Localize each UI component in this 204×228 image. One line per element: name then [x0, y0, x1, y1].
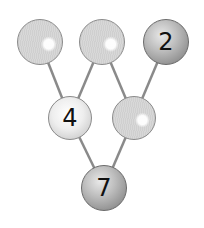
node-middle-right [112, 96, 156, 140]
node-bottom: 7 [81, 165, 127, 211]
node-top-middle [79, 19, 125, 65]
node-value: 2 [158, 30, 173, 54]
node-value: 4 [62, 106, 77, 130]
node-top-right: 2 [143, 19, 189, 65]
node-top-left [17, 19, 63, 65]
node-middle-left: 4 [48, 96, 92, 140]
number-bond-diagram: 2 4 7 [0, 0, 204, 228]
node-value: 7 [96, 176, 111, 200]
